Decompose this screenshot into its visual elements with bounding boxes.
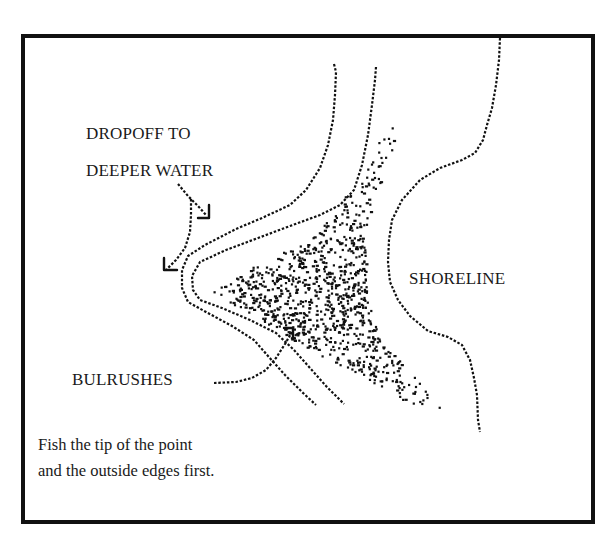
caption-line1: Fish the tip of the point <box>38 432 192 458</box>
outer-dropoff-contour <box>182 64 336 405</box>
caption-line2: and the outside edges first. <box>38 458 214 484</box>
bulrushes-label: BULRUSHES <box>72 370 173 390</box>
dropoff-label-line1: DROPOFF TO <box>86 124 191 144</box>
shoreline-line <box>388 38 500 432</box>
shoreline-label: SHORELINE <box>409 269 505 289</box>
inner-dropoff-contour <box>192 67 376 404</box>
bulrushes-stipple <box>214 127 441 409</box>
dropoff-label-line2: DEEPER WATER <box>86 161 213 181</box>
